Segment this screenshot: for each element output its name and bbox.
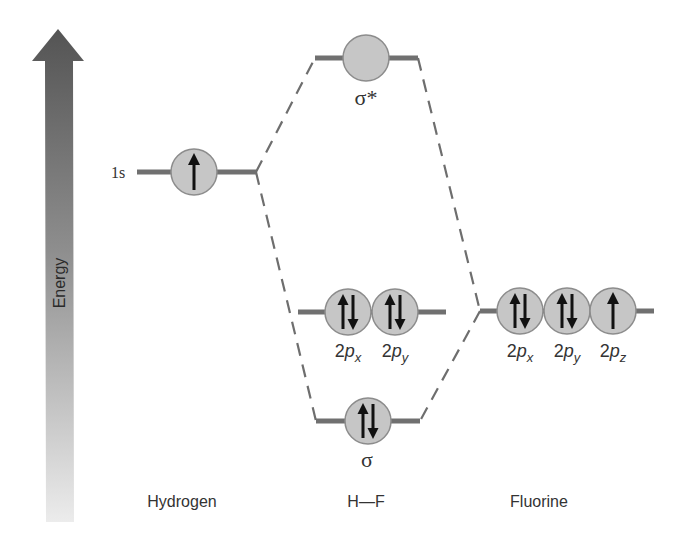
column-label-hf: H—F	[347, 493, 385, 510]
orbital-label: 2px	[507, 341, 534, 365]
orbital-circle	[544, 288, 590, 334]
orbital-circle	[345, 398, 391, 444]
orbital-circle	[325, 289, 371, 335]
fluorine-2p-level: 2px 2py 2pz	[480, 288, 654, 365]
column-label-hydrogen: Hydrogen	[147, 493, 216, 510]
orbital-circle	[343, 35, 389, 81]
hydrogen-1s-level: 1s	[111, 149, 256, 195]
sigma-star-level: σ*	[315, 35, 418, 110]
sigma-star-label: σ*	[355, 85, 378, 110]
sigma-label: σ	[361, 447, 373, 472]
orbital-label: 2py	[382, 341, 410, 365]
mo-diagram: Energy 1s σ*	[0, 0, 686, 535]
energy-axis-label: Energy	[51, 258, 68, 309]
molecule-nonbonding-2p-level: 2px 2py	[298, 289, 446, 365]
correlation-lines	[256, 58, 480, 421]
energy-axis-arrow: Energy	[32, 29, 84, 522]
sigma-level: σ	[316, 398, 420, 472]
orbital-label: 2py	[554, 341, 582, 365]
orbital-circle	[372, 289, 418, 335]
orbital-circle	[497, 288, 543, 334]
orbital-label: 2px	[335, 341, 362, 365]
column-label-fluorine: Fluorine	[510, 493, 568, 510]
hydrogen-1s-label: 1s	[111, 164, 125, 181]
orbital-label: 2pz	[600, 341, 627, 365]
